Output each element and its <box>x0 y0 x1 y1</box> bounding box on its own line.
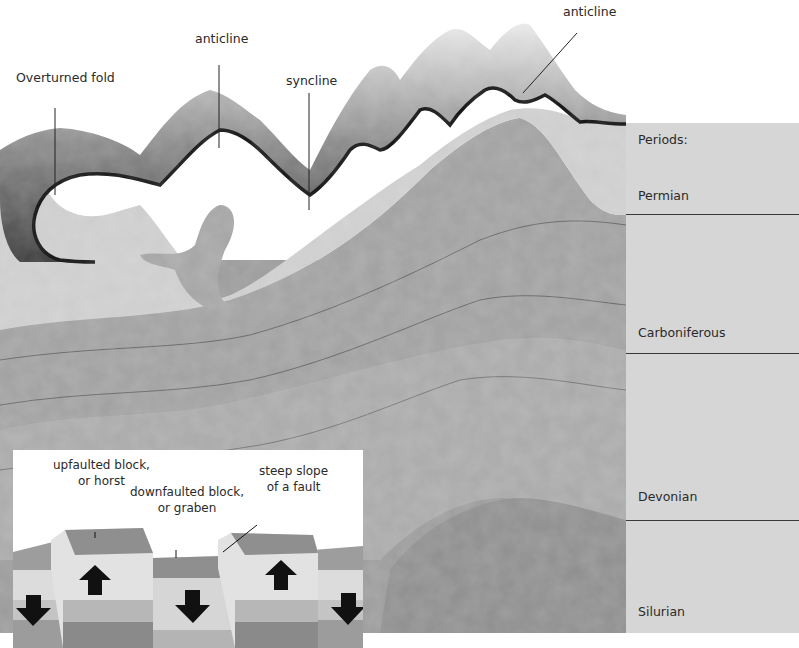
label-syncline: syncline <box>286 73 337 89</box>
period-divider <box>626 520 799 521</box>
label-graben: downfaulted block, or graben <box>130 485 244 516</box>
periods-panel: Periods: Permian Carboniferous Devonian … <box>626 123 799 633</box>
label-anticline-left: anticline <box>195 31 248 47</box>
periods-heading: Periods: <box>638 132 688 147</box>
period-divider <box>626 214 799 215</box>
period-silurian: Silurian <box>638 604 685 619</box>
period-devonian: Devonian <box>638 489 697 504</box>
label-fault-slope: steep slope of a fault <box>259 464 328 495</box>
period-divider <box>626 353 799 354</box>
period-permian: Permian <box>638 188 689 203</box>
period-carboniferous: Carboniferous <box>638 325 726 340</box>
fold-diagram: Overturned fold anticline syncline antic… <box>0 0 799 648</box>
label-overturned-fold: Overturned fold <box>16 70 115 86</box>
horst-graben-inset: upfaulted block, or horst downfaulted bl… <box>13 450 363 648</box>
label-anticline-right: anticline <box>563 4 616 20</box>
